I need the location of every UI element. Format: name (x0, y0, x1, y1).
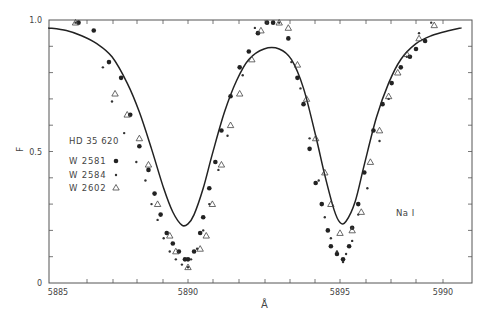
y-tick-label: 0.5 (29, 148, 42, 157)
x-tick-label: 5885 (48, 288, 68, 297)
plot-frame (49, 20, 472, 283)
x-tick-label: 5890 (178, 288, 198, 297)
legend-label-w2602: W 2602 (69, 183, 107, 193)
open-triangle-icon (113, 185, 119, 191)
element-label: Na I (396, 208, 415, 218)
star-label: HD 35 620 (69, 136, 119, 146)
legend-label-w2584: W 2584 (69, 170, 107, 180)
y-tick-label: 1.0 (29, 16, 42, 25)
spectrum-chart: 5885589058955990 1.00.50 F Å HD 35 620 W… (0, 0, 493, 320)
y-tick-label: 0 (37, 279, 42, 288)
legend-label-w2581: W 2581 (69, 156, 107, 166)
model-curve (48, 28, 461, 226)
small-dot-icon (115, 174, 117, 176)
x-tick-label: 5895 (330, 288, 350, 297)
data-points (72, 19, 437, 269)
filled-circle-icon (114, 159, 119, 164)
x-tick-label: 5990 (433, 288, 453, 297)
y-axis-label: F (15, 147, 25, 152)
x-axis-label: Å (261, 298, 268, 310)
legend: W 2581 W 2584 W 2602 (69, 156, 119, 193)
